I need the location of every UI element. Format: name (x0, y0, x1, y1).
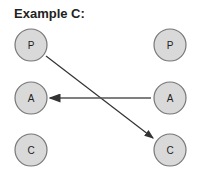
arrow-left-p-to-right-c (46, 56, 153, 138)
svg-text:C: C (27, 145, 34, 156)
diagram-canvas: P A C P A C (0, 0, 197, 178)
node-left-p: P (15, 29, 47, 61)
svg-text:A: A (167, 93, 174, 104)
svg-text:P: P (167, 40, 174, 51)
node-right-c: C (154, 134, 186, 166)
node-right-a: A (154, 82, 186, 114)
svg-text:C: C (166, 145, 173, 156)
node-left-a: A (15, 82, 47, 114)
svg-text:A: A (28, 93, 35, 104)
node-right-p: P (154, 29, 186, 61)
node-left-c: C (15, 134, 47, 166)
svg-text:P: P (28, 40, 35, 51)
